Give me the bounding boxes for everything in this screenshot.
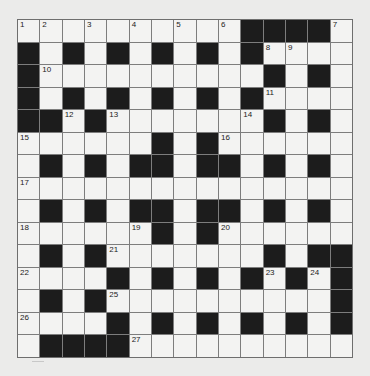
answer-cell[interactable] (152, 65, 173, 87)
answer-cell[interactable] (40, 268, 61, 290)
answer-cell[interactable] (308, 133, 329, 155)
answer-cell[interactable] (130, 313, 151, 335)
answer-cell[interactable] (331, 133, 352, 155)
answer-cell[interactable]: 8 (264, 43, 285, 65)
answer-cell[interactable] (264, 335, 285, 357)
answer-cell[interactable] (308, 313, 329, 335)
answer-cell[interactable] (152, 110, 173, 132)
answer-cell[interactable] (286, 155, 307, 177)
answer-cell[interactable] (286, 110, 307, 132)
answer-cell[interactable]: 2 (40, 20, 61, 42)
answer-cell[interactable] (219, 245, 240, 267)
answer-cell[interactable]: 1 (18, 20, 39, 42)
answer-cell[interactable] (286, 200, 307, 222)
answer-cell[interactable] (241, 133, 262, 155)
answer-cell[interactable]: 24 (308, 268, 329, 290)
answer-cell[interactable]: 5 (174, 20, 195, 42)
answer-cell[interactable] (174, 245, 195, 267)
answer-cell[interactable] (286, 178, 307, 200)
answer-cell[interactable] (63, 290, 84, 312)
answer-cell[interactable] (308, 335, 329, 357)
answer-cell[interactable] (107, 155, 128, 177)
answer-cell[interactable]: 4 (130, 20, 151, 42)
answer-cell[interactable] (308, 223, 329, 245)
answer-cell[interactable] (174, 268, 195, 290)
answer-cell[interactable] (241, 155, 262, 177)
answer-cell[interactable] (331, 110, 352, 132)
answer-cell[interactable] (331, 335, 352, 357)
answer-cell[interactable] (130, 43, 151, 65)
answer-cell[interactable] (219, 290, 240, 312)
answer-cell[interactable] (130, 65, 151, 87)
answer-cell[interactable] (174, 88, 195, 110)
answer-cell[interactable] (197, 335, 218, 357)
answer-cell[interactable] (130, 245, 151, 267)
answer-cell[interactable] (107, 65, 128, 87)
answer-cell[interactable] (174, 43, 195, 65)
answer-cell[interactable] (331, 88, 352, 110)
answer-cell[interactable] (219, 43, 240, 65)
answer-cell[interactable] (130, 290, 151, 312)
answer-cell[interactable]: 22 (18, 268, 39, 290)
answer-cell[interactable] (130, 178, 151, 200)
answer-cell[interactable] (63, 155, 84, 177)
answer-cell[interactable]: 10 (40, 65, 61, 87)
answer-cell[interactable] (331, 65, 352, 87)
answer-cell[interactable] (331, 178, 352, 200)
answer-cell[interactable]: 12 (63, 110, 84, 132)
answer-cell[interactable] (63, 65, 84, 87)
answer-cell[interactable]: 14 (241, 110, 262, 132)
answer-cell[interactable] (174, 290, 195, 312)
answer-cell[interactable] (85, 65, 106, 87)
answer-cell[interactable] (219, 313, 240, 335)
answer-cell[interactable] (152, 245, 173, 267)
answer-cell[interactable] (197, 178, 218, 200)
answer-cell[interactable] (40, 313, 61, 335)
answer-cell[interactable]: 9 (286, 43, 307, 65)
answer-cell[interactable] (130, 268, 151, 290)
answer-cell[interactable]: 27 (130, 335, 151, 357)
answer-cell[interactable] (241, 178, 262, 200)
answer-cell[interactable] (63, 245, 84, 267)
answer-cell[interactable] (219, 88, 240, 110)
answer-cell[interactable] (241, 223, 262, 245)
answer-cell[interactable]: 6 (219, 20, 240, 42)
answer-cell[interactable] (219, 110, 240, 132)
answer-cell[interactable] (107, 133, 128, 155)
answer-cell[interactable]: 23 (264, 268, 285, 290)
answer-cell[interactable] (107, 20, 128, 42)
answer-cell[interactable] (40, 178, 61, 200)
answer-cell[interactable] (331, 155, 352, 177)
answer-cell[interactable] (85, 178, 106, 200)
answer-cell[interactable] (219, 268, 240, 290)
answer-cell[interactable] (174, 65, 195, 87)
answer-cell[interactable] (264, 290, 285, 312)
answer-cell[interactable] (130, 110, 151, 132)
answer-cell[interactable] (197, 65, 218, 87)
answer-cell[interactable] (152, 178, 173, 200)
answer-cell[interactable]: 20 (219, 223, 240, 245)
answer-cell[interactable] (174, 178, 195, 200)
answer-cell[interactable] (18, 245, 39, 267)
answer-cell[interactable] (85, 268, 106, 290)
answer-cell[interactable] (85, 88, 106, 110)
answer-cell[interactable] (174, 133, 195, 155)
answer-cell[interactable]: 7 (331, 20, 352, 42)
answer-cell[interactable] (286, 335, 307, 357)
answer-cell[interactable]: 25 (107, 290, 128, 312)
answer-cell[interactable] (152, 290, 173, 312)
answer-cell[interactable] (219, 65, 240, 87)
answer-cell[interactable] (286, 88, 307, 110)
answer-cell[interactable]: 16 (219, 133, 240, 155)
answer-cell[interactable] (152, 20, 173, 42)
answer-cell[interactable]: 19 (130, 223, 151, 245)
answer-cell[interactable] (219, 178, 240, 200)
answer-cell[interactable] (63, 268, 84, 290)
answer-cell[interactable] (219, 335, 240, 357)
answer-cell[interactable] (18, 155, 39, 177)
answer-cell[interactable] (264, 223, 285, 245)
answer-cell[interactable] (197, 290, 218, 312)
answer-cell[interactable]: 11 (264, 88, 285, 110)
answer-cell[interactable] (40, 43, 61, 65)
answer-cell[interactable] (174, 110, 195, 132)
